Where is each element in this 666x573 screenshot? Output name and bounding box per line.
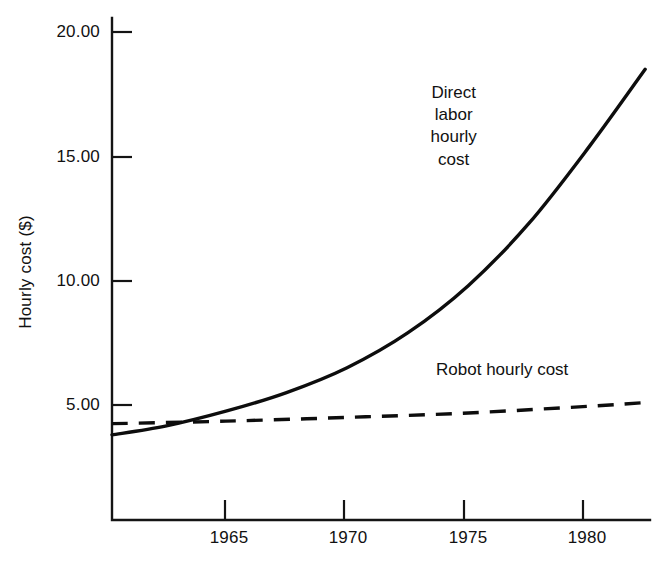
annotation-line: cost bbox=[431, 149, 477, 171]
annotation-line: hourly bbox=[431, 126, 477, 148]
x-tick-label-1965: 1965 bbox=[210, 528, 249, 548]
y-axis-ticks bbox=[112, 32, 132, 405]
x-tick-label-1975: 1975 bbox=[449, 528, 488, 548]
y-tick-label-10: 10.00 bbox=[18, 271, 100, 291]
x-tick-label-1970: 1970 bbox=[329, 528, 368, 548]
annotation-direct-labor-hourly-cost: Direct labor hourly cost bbox=[431, 82, 477, 172]
x-axis-ticks bbox=[225, 500, 583, 520]
y-tick-label-5: 5.00 bbox=[18, 395, 100, 415]
x-tick-label-1980: 1980 bbox=[568, 528, 607, 548]
y-tick-label-15: 15.00 bbox=[18, 147, 100, 167]
annotation-robot-hourly-cost: Robot hourly cost bbox=[436, 359, 568, 381]
annotation-line: labor bbox=[431, 104, 477, 126]
axis-lines bbox=[112, 18, 650, 520]
y-tick-label-20: 20.00 bbox=[18, 22, 100, 42]
chart-figure: Hourly cost ($) 20.00 15.00 10.00 5.00 1… bbox=[0, 0, 666, 573]
annotation-line: Robot hourly cost bbox=[436, 359, 568, 381]
annotation-line: Direct bbox=[431, 82, 477, 104]
